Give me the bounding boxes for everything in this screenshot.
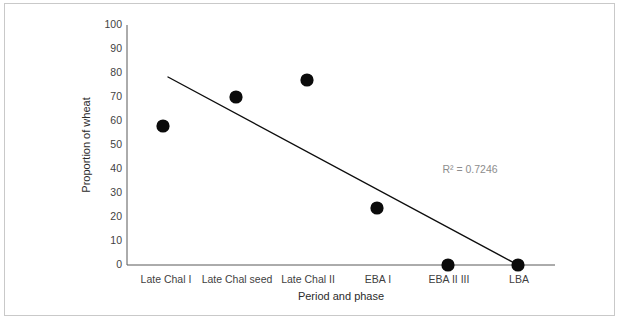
y-tick-label: 80 — [110, 66, 122, 78]
data-point — [370, 201, 383, 214]
data-point — [229, 90, 242, 103]
x-tick-label: EBA II III — [429, 273, 470, 285]
data-point — [441, 258, 454, 271]
x-axis-title: Period and phase — [298, 290, 384, 302]
y-tick-label: 60 — [110, 114, 122, 126]
r-squared-annotation: R² = 0.7246 — [442, 163, 497, 175]
y-tick-label: 100 — [104, 18, 122, 30]
y-tick-label: 40 — [110, 162, 122, 174]
y-tick-label: 70 — [110, 90, 122, 102]
y-tick-label: 20 — [110, 210, 122, 222]
x-tick-labels: Late Chal I Late Chal seed Late Chal II … — [141, 273, 529, 285]
x-tick-label: Late Chal seed — [202, 273, 273, 285]
chart-figure: 100 90 80 70 60 50 40 30 20 10 0 Proport… — [0, 0, 619, 320]
x-tick-label: EBA I — [365, 273, 391, 285]
y-tick-label: 90 — [110, 42, 122, 54]
y-tick-label: 0 — [116, 258, 122, 270]
y-tick-label: 10 — [110, 234, 122, 246]
y-tick-label: 30 — [110, 186, 122, 198]
x-tick-label: LBA — [509, 273, 529, 285]
y-tick-labels: 100 90 80 70 60 50 40 30 20 10 0 — [104, 18, 122, 270]
y-axis-title: Proportion of wheat — [80, 97, 92, 192]
data-point — [300, 73, 313, 86]
x-tick-label: Late Chal I — [141, 273, 192, 285]
x-tick-label: Late Chal II — [281, 273, 335, 285]
y-tick-label: 50 — [110, 138, 122, 150]
scatter-plot: 100 90 80 70 60 50 40 30 20 10 0 Proport… — [0, 0, 619, 320]
data-point — [511, 258, 524, 271]
axes-group — [127, 25, 555, 265]
data-point — [156, 119, 169, 132]
